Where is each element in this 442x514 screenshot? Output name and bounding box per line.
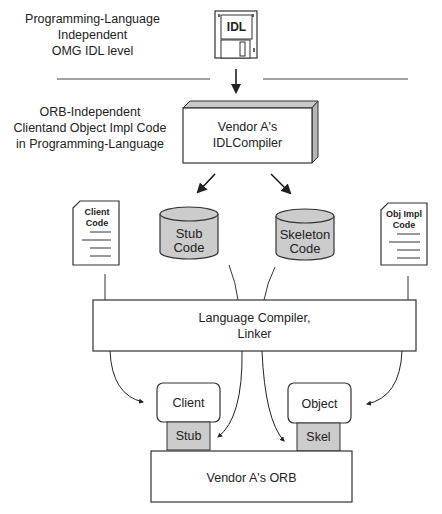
idl-disk-label: IDL (221, 19, 252, 35)
arrow-compiler-to-skeleton (271, 174, 290, 193)
stub-code-label: Stub Code (160, 227, 218, 255)
skeleton-code-line-2: Code (274, 242, 336, 256)
code-level-line-3: in Programming-Language (4, 136, 176, 152)
client-label: Client (157, 395, 220, 411)
code-level-line-1: ORB-Independent (4, 104, 176, 120)
client-code-line-2: Code (74, 218, 120, 229)
skel-label: Skel (297, 429, 340, 445)
language-compiler-line-2: Linker (93, 326, 416, 342)
idl-compiler-line-2: IDLCompiler (183, 135, 312, 151)
obj-impl-code-label: Obj Impl Code (380, 209, 428, 231)
diagram-canvas (0, 0, 442, 514)
idl-compiler-line-1: Vendor A's (183, 119, 312, 135)
idl-level-line-1: Programming-Language (0, 11, 185, 27)
object-label: Object (288, 396, 351, 412)
idl-level-line-3: OMG IDL level (0, 43, 185, 59)
inputs-to-language-compiler (105, 265, 408, 300)
code-level-label: ORB-Independent Clientand Object Impl Co… (4, 104, 176, 152)
client-code-line-1: Client (74, 207, 120, 218)
code-level-line-2: Clientand Object Impl Code (4, 120, 176, 136)
skeleton-code-line-1: Skeleton (274, 228, 336, 242)
idl-level-label: Programming-Language Independent OMG IDL… (0, 11, 185, 59)
skeleton-code-label: Skeleton Code (274, 228, 336, 256)
idl-level-line-2: Independent (0, 27, 185, 43)
client-code-label: Client Code (74, 207, 120, 229)
obj-impl-code-line-2: Code (380, 220, 428, 231)
obj-impl-code-line-1: Obj Impl (380, 209, 428, 220)
stub-code-line-2: Code (160, 241, 218, 255)
orb-label: Vendor A's ORB (151, 470, 352, 486)
arrow-compiler-to-stub (198, 174, 215, 192)
stub-label: Stub (167, 428, 210, 444)
stub-code-line-1: Stub (160, 227, 218, 241)
language-compiler-line-1: Language Compiler, (93, 310, 416, 326)
idl-compiler-label: Vendor A's IDLCompiler (183, 119, 312, 151)
compiler-output-arrows (110, 351, 402, 441)
language-compiler-label: Language Compiler, Linker (93, 310, 416, 342)
